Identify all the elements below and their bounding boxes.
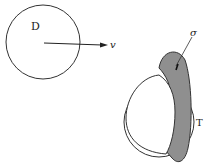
diagram-canvas: D v T σ bbox=[0, 0, 214, 164]
circle-d bbox=[6, 5, 80, 79]
velocity-arrow-shaft bbox=[44, 43, 102, 45]
label-t: T bbox=[196, 117, 203, 128]
arrowhead-icon bbox=[100, 43, 108, 48]
label-v: v bbox=[110, 39, 116, 50]
label-sigma: σ bbox=[190, 27, 198, 38]
label-d: D bbox=[31, 20, 40, 33]
